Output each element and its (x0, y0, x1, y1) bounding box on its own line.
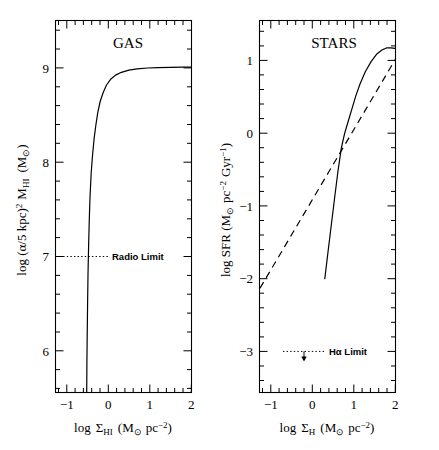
stars-xaxis-sigma: Σ (301, 420, 309, 435)
stars-ytick-label-2: −1 (239, 199, 253, 214)
gas-xaxis-close: ) (168, 420, 172, 435)
gas-yaxis-title: log (α/5 kpc)2MHI(M⊙) (14, 144, 31, 275)
stars-yaxis-pc-exp: −2 (218, 181, 228, 191)
stars-yaxis-pc: pc (218, 190, 233, 203)
astronomy-two-panel-figure: −1 0 1 2 6 7 8 9 GAS Radio Limit logΣHI(… (0, 0, 439, 450)
gas-ytick-label-2: 8 (43, 155, 50, 170)
gas-yaxis-m-sub: HI (21, 179, 31, 189)
gas-xtick-label-1: 0 (105, 397, 112, 412)
stars-ytick-label-3: −2 (239, 271, 253, 286)
stars-xaxis-sigma-sub: H (309, 427, 316, 437)
stars-yaxis-log: log SFR (M (218, 214, 233, 277)
stars-yaxis-msun: ⊙ (225, 207, 235, 215)
gas-ytick-label-0: 6 (43, 344, 50, 359)
gas-panel-title: GAS (113, 35, 143, 51)
gas-yaxis-m: M (14, 188, 29, 200)
gas-yaxis-slash5: /5 kpc) (14, 208, 29, 244)
gas-yaxis-log: log ( (14, 251, 29, 275)
gas-xaxis-sigma-sub: HI (103, 427, 113, 437)
gas-yaxis-msun: ⊙ (21, 149, 31, 157)
gas-xtick-label-0: −1 (60, 397, 74, 412)
gas-ytick-label-3: 9 (43, 61, 50, 76)
gas-yaxis-close: ) (14, 144, 29, 148)
gas-xaxis-title: logΣHI(M⊙pc−2) (74, 420, 172, 437)
stars-yaxis-close: ) (218, 143, 233, 147)
stars-yaxis-gyr-exp: −1 (218, 147, 228, 157)
stars-xtick-label-1: 0 (309, 397, 316, 412)
gas-xaxis-log: log (74, 420, 91, 435)
gas-xaxis-pc: pc (146, 420, 159, 435)
stars-panel-title: STARS (311, 35, 356, 51)
stars-ytick-label-1: 0 (247, 126, 254, 141)
gas-xtick-label-2: 1 (147, 397, 154, 412)
stars-ytick-label-0: 1 (247, 53, 254, 68)
halpha-limit-label: Hα Limit (329, 346, 368, 357)
stars-xaxis-pc: pc (348, 420, 361, 435)
stars-xaxis-msun: ⊙ (336, 427, 344, 437)
gas-xaxis-sigma: Σ (96, 420, 104, 435)
stars-xaxis-title: logΣH(M⊙pc−2) (280, 420, 375, 437)
gas-xaxis-msun: ⊙ (134, 427, 142, 437)
stars-xaxis-log: log (280, 420, 297, 435)
figure-container: −1 0 1 2 6 7 8 9 GAS Radio Limit logΣHI(… (0, 0, 439, 450)
stars-xaxis-open: (M (320, 420, 336, 435)
radio-limit-label: Radio Limit (112, 251, 165, 262)
gas-yaxis-open: (M (14, 156, 29, 172)
stars-xtick-label-3: 2 (392, 397, 399, 412)
stars-ytick-label-4: −3 (239, 344, 253, 359)
stars-xtick-label-0: −1 (264, 397, 278, 412)
stars-xtick-label-2: 1 (351, 397, 358, 412)
gas-yaxis-exp2: 2 (14, 204, 24, 209)
stars-xaxis-pc-exp: −2 (360, 420, 370, 430)
gas-xaxis-pc-exp: −2 (158, 420, 168, 430)
gas-xaxis-open: (M (118, 420, 134, 435)
stars-yaxis-gyr: Gyr (218, 156, 233, 177)
stars-xaxis-close: ) (370, 420, 374, 435)
gas-ytick-label-1: 7 (43, 249, 50, 264)
gas-xtick-label-3: 2 (188, 397, 195, 412)
